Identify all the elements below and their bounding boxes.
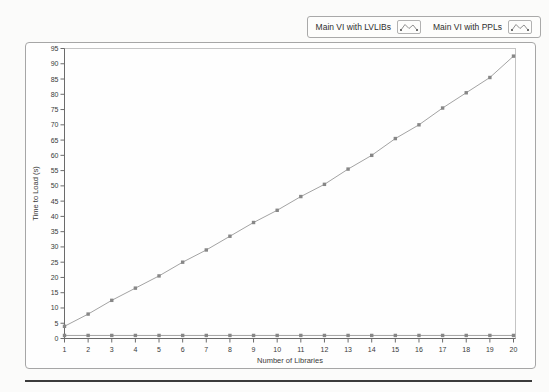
series-1-marker — [323, 334, 326, 337]
y-tick-label: 45 — [51, 198, 59, 205]
series-1-marker — [441, 334, 444, 337]
series-1-marker — [205, 334, 208, 337]
y-tick-label: 90 — [51, 60, 59, 67]
x-tick-label: 1 — [63, 346, 67, 353]
plot-legend: Main VI with LVLIBs Main VI with PPLs — [307, 16, 541, 38]
section-divider — [25, 380, 532, 382]
series-0-marker — [205, 248, 208, 251]
series-0-marker — [465, 91, 468, 94]
y-tick-label: 75 — [51, 106, 59, 113]
series-0-marker — [157, 274, 160, 277]
series-1-marker — [252, 334, 255, 337]
series-1-marker — [134, 334, 137, 337]
series-line-0 — [65, 56, 514, 326]
y-tick-label: 0 — [55, 335, 59, 342]
x-tick-label: 7 — [204, 346, 208, 353]
y-tick-label: 35 — [51, 228, 59, 235]
x-tick-label: 8 — [228, 346, 232, 353]
series-1-marker — [370, 334, 373, 337]
y-tick-label: 60 — [51, 152, 59, 159]
line-plot-icon[interactable] — [397, 20, 421, 34]
series-1-marker — [299, 334, 302, 337]
y-tick-label: 55 — [51, 167, 59, 174]
series-1-marker — [275, 334, 278, 337]
y-tick-label: 70 — [51, 121, 59, 128]
x-tick-label: 15 — [391, 346, 399, 353]
series-0-marker — [134, 286, 137, 289]
y-tick-label: 50 — [51, 182, 59, 189]
legend-item-lvlibs[interactable]: Main VI with LVLIBs — [316, 20, 421, 34]
x-tick-label: 12 — [321, 346, 329, 353]
series-0-marker — [346, 167, 349, 170]
y-tick-label: 10 — [51, 304, 59, 311]
series-0-marker — [299, 195, 302, 198]
x-tick-label: 10 — [273, 346, 281, 353]
y-tick-label: 15 — [51, 289, 59, 296]
series-0-marker — [488, 76, 491, 79]
series-0-marker — [228, 235, 231, 238]
y-axis-title: Time to Load (s) — [31, 166, 40, 221]
x-tick-label: 9 — [252, 346, 256, 353]
series-1-marker — [394, 334, 397, 337]
y-tick-label: 40 — [51, 213, 59, 220]
y-tick-label: 65 — [51, 137, 59, 144]
x-tick-label: 20 — [510, 346, 518, 353]
series-1-marker — [228, 334, 231, 337]
x-tick-label: 17 — [439, 346, 447, 353]
x-tick-label: 14 — [368, 346, 376, 353]
series-0-marker — [441, 106, 444, 109]
series-0-marker — [417, 123, 420, 126]
y-tick-label: 30 — [51, 243, 59, 250]
y-tick-label: 25 — [51, 259, 59, 266]
series-0-marker — [110, 299, 113, 302]
series-1-marker — [465, 334, 468, 337]
x-axis-title: Number of Libraries — [257, 356, 323, 365]
x-tick-label: 18 — [462, 346, 470, 353]
series-0-marker — [275, 209, 278, 212]
figure-page: Main VI with LVLIBs Main VI with PPLs — [0, 0, 549, 392]
series-1-marker — [157, 334, 160, 337]
x-tick-label: 4 — [133, 346, 137, 353]
legend-item-ppls[interactable]: Main VI with PPLs — [433, 20, 532, 34]
x-tick-label: 2 — [86, 346, 90, 353]
x-tick-label: 16 — [415, 346, 423, 353]
x-tick-label: 13 — [344, 346, 352, 353]
line-plot-icon[interactable] — [508, 20, 532, 34]
series-0-marker — [323, 183, 326, 186]
y-tick-label: 85 — [51, 76, 59, 83]
series-1-marker — [417, 334, 420, 337]
legend-label-ppls: Main VI with PPLs — [433, 22, 502, 32]
series-1-marker — [110, 334, 113, 337]
series-0-marker — [370, 154, 373, 157]
y-tick-label: 5 — [55, 320, 59, 327]
series-0-marker — [252, 221, 255, 224]
graph-frame: 0510152025303540455055606570758085909512… — [25, 42, 536, 369]
series-1-marker — [181, 334, 184, 337]
series-1-marker — [488, 334, 491, 337]
series-1-marker — [63, 334, 66, 337]
series-1-marker — [512, 334, 515, 337]
series-0-marker — [394, 137, 397, 140]
xy-graph: 0510152025303540455055606570758085909512… — [26, 43, 535, 368]
series-0-marker — [512, 54, 515, 57]
x-tick-label: 6 — [181, 346, 185, 353]
series-0-marker — [181, 260, 184, 263]
series-1-marker — [86, 334, 89, 337]
series-0-marker — [63, 325, 66, 328]
x-tick-label: 5 — [157, 346, 161, 353]
x-tick-label: 19 — [486, 346, 494, 353]
series-1-marker — [346, 334, 349, 337]
x-tick-label: 11 — [297, 346, 304, 353]
y-tick-label: 80 — [51, 91, 59, 98]
x-tick-label: 3 — [110, 346, 114, 353]
plot-area-border — [65, 49, 516, 339]
y-tick-label: 20 — [51, 274, 59, 281]
legend-label-lvlibs: Main VI with LVLIBs — [316, 22, 391, 32]
series-0-marker — [86, 312, 89, 315]
y-tick-label: 95 — [51, 45, 59, 52]
